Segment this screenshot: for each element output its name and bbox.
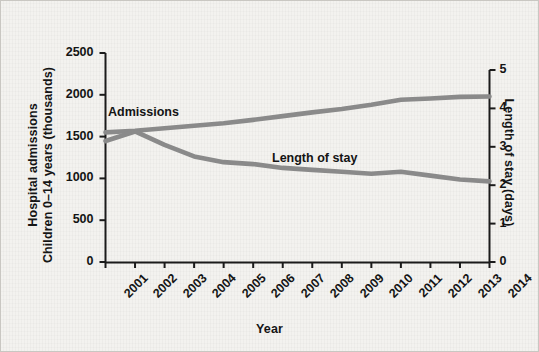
y-axis-left-tick-label: 0 bbox=[0, 254, 94, 268]
y-axis-left-tick-label: 500 bbox=[0, 212, 94, 226]
y-axis-right-tick-label: 3 bbox=[500, 139, 507, 153]
y-axis-right-tick-label: 5 bbox=[500, 62, 507, 76]
series-label-admissions: Admissions bbox=[108, 105, 179, 119]
x-axis-label: Year bbox=[0, 322, 539, 336]
y-axis-right-tick-label: 2 bbox=[500, 177, 507, 191]
y-axis-right-tick-label: 4 bbox=[500, 100, 507, 114]
y-axis-left-tick-label: 2500 bbox=[0, 45, 94, 59]
series-label-length-of-stay: Length of stay bbox=[272, 151, 357, 165]
y-axis-right-label-text: Length of stay (days) bbox=[502, 99, 516, 227]
y-axis-left-label-line1: Hospital admissions bbox=[26, 103, 40, 226]
y-axis-right-label: Length of stay (days) bbox=[501, 63, 516, 263]
x-axis-label-text: Year bbox=[256, 322, 283, 336]
y-axis-right-tick-label: 1 bbox=[500, 216, 507, 230]
chart-figure: Hospital admissions Children 0–14 years … bbox=[0, 0, 539, 352]
y-axis-left-tick-label: 1500 bbox=[0, 129, 94, 143]
y-axis-left-label: Hospital admissions Children 0–14 years … bbox=[26, 50, 56, 280]
y-axis-right-tick-label: 0 bbox=[500, 254, 507, 268]
y-axis-left-tick-label: 2000 bbox=[0, 87, 94, 101]
y-axis-left-tick-label: 1000 bbox=[0, 170, 94, 184]
